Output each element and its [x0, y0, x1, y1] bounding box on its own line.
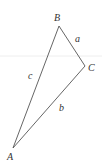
vertex-label-c: C — [88, 62, 95, 73]
side-label-c: c — [28, 70, 33, 81]
side-label-a: a — [75, 33, 80, 44]
triangle-abc — [13, 26, 85, 148]
triangle-diagram: A B C a b c — [0, 0, 102, 163]
vertex-label-b: B — [54, 12, 60, 23]
side-label-b: b — [59, 102, 64, 113]
vertex-label-a: A — [6, 151, 14, 162]
